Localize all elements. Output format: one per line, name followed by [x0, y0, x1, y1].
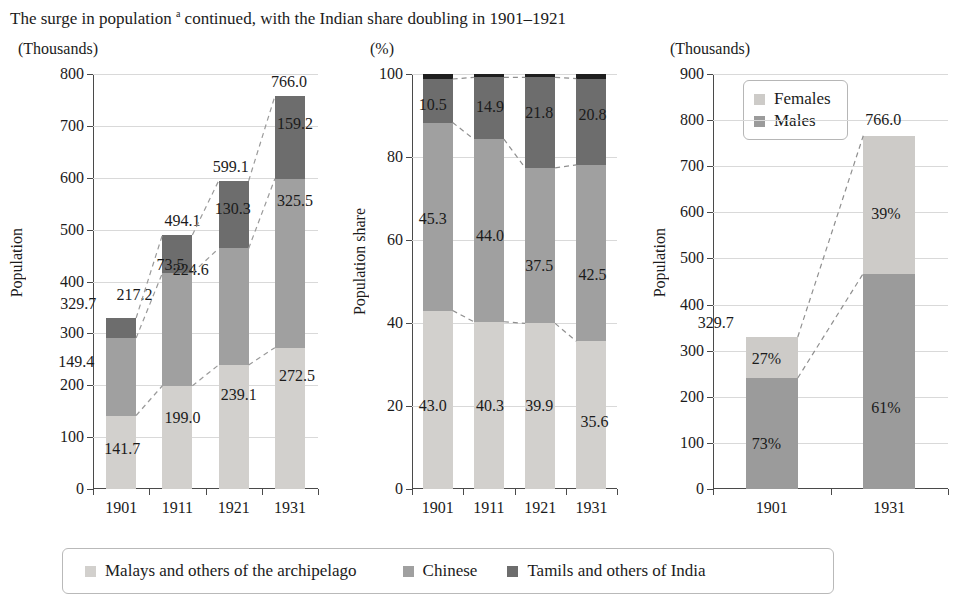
left-y-tick-label: 600: [60, 170, 84, 186]
mid-x-tick: [463, 489, 464, 495]
left-y-tick-label: 0: [76, 481, 84, 497]
mid-unit-label: (%): [370, 38, 394, 60]
left-y-tick: [87, 282, 93, 283]
mid-x-tick: [566, 489, 567, 495]
right-total-label: 766.0: [865, 112, 901, 128]
mid-x-tick-label: 1931: [575, 499, 607, 517]
right-y-tick: [707, 74, 713, 75]
mid-y-tick: [406, 74, 412, 75]
right-y-tick-label: 400: [680, 297, 704, 313]
bar: [219, 181, 249, 489]
left-chinese-label: 325.5: [277, 193, 313, 209]
right-y-tick: [707, 351, 713, 352]
mid-y-tick: [406, 323, 412, 324]
left-malays-label: 141.7: [104, 441, 140, 457]
figure-root: The surge in population a continued, wit…: [0, 0, 975, 613]
figure-title: The surge in population a continued, wit…: [10, 2, 566, 31]
left-malays-label: 199.0: [164, 410, 200, 426]
mid-chinese-label: 37.5: [525, 258, 553, 274]
mid-y-tick: [406, 157, 412, 158]
legend-item: Chinese: [403, 561, 478, 581]
legend-label: Tamils and others of India: [527, 561, 705, 581]
left-x-tick-label: 1901: [105, 499, 137, 517]
panel-population-absolute: (Thousands) Population 01002003004005006…: [0, 38, 345, 538]
mid-tamils-label: 10.5: [419, 97, 447, 113]
mid-malays-label: 39.9: [525, 398, 553, 414]
right-total-label: 329.7: [698, 315, 734, 331]
mid-y-axis: [412, 74, 413, 489]
right-females-label: 39%: [871, 206, 900, 222]
bar-segment-tamils: [275, 96, 305, 179]
bar-segment-chinese: [162, 273, 192, 386]
left-tamils-label: 159.2: [277, 116, 313, 132]
bar-segment-other: [576, 74, 606, 79]
mid-x-tick-label: 1901: [422, 499, 454, 517]
left-y-tick: [87, 74, 93, 75]
legend-swatch-icon: [85, 566, 96, 577]
bar: [474, 74, 504, 489]
bar-segment-males: [746, 378, 798, 489]
mid-y-tick-label: 80: [387, 149, 403, 165]
mid-x-tick: [515, 489, 516, 495]
left-x-tick: [93, 489, 94, 495]
left-total-label: 329.7: [60, 296, 96, 312]
females-legend-label: Females: [774, 89, 831, 109]
right-x-tick: [948, 489, 949, 495]
right-males-label: 61%: [871, 400, 900, 416]
left-y-tick: [87, 333, 93, 334]
mid-plot-area: 020406080100190119111921193110.514.921.8…: [412, 74, 617, 489]
mid-malays-label: 43.0: [419, 398, 447, 414]
left-chinese-label: 149.4: [58, 354, 94, 370]
right-y-tick-label: 600: [680, 204, 704, 220]
legend-label: Malays and others of the archipelago: [105, 561, 357, 581]
females-swatch-icon: [754, 94, 765, 105]
mid-tamils-label: 21.8: [525, 105, 553, 121]
left-malays-label: 239.1: [221, 387, 257, 403]
mid-y-tick-label: 40: [387, 315, 403, 331]
bar: [275, 96, 305, 489]
right-gridline: [713, 74, 948, 75]
right-y-tick: [707, 212, 713, 213]
right-x-tick-label: 1901: [756, 499, 788, 517]
mid-x-tick-label: 1921: [524, 499, 556, 517]
figure-title-footnote-marker: a: [176, 8, 180, 19]
right-y-tick-label: 700: [680, 158, 704, 174]
bar-segment-other: [474, 74, 504, 77]
left-y-tick-label: 300: [60, 325, 84, 341]
left-x-tick: [262, 489, 263, 495]
left-y-tick: [87, 385, 93, 386]
mid-chinese-label: 45.3: [419, 211, 447, 227]
right-axis-title: Population: [651, 228, 669, 297]
legend-item: Tamils and others of India: [507, 561, 705, 581]
left-plot-area: 0100200300400500600700800190119111921193…: [93, 74, 318, 489]
legend-item: Malays and others of the archipelago: [85, 561, 357, 581]
right-x-tick: [831, 489, 832, 495]
bar-segment-malays: [219, 365, 249, 489]
left-chinese-label: 217.2: [116, 287, 152, 303]
right-y-tick: [707, 397, 713, 398]
right-y-tick: [707, 166, 713, 167]
left-y-tick: [87, 230, 93, 231]
legend-swatch-icon: [403, 566, 414, 577]
bar-segment-chinese: [525, 168, 555, 324]
right-y-tick-label: 200: [680, 389, 704, 405]
right-plot-area: FemalesMales 010020030040050060070080090…: [713, 74, 948, 489]
right-x-tick-label: 1931: [873, 499, 905, 517]
figure-title-after: continued, with the Indian share doublin…: [185, 9, 567, 28]
left-x-tick-label: 1931: [274, 499, 306, 517]
bar: [106, 318, 136, 489]
left-tamils-label: 130.3: [215, 201, 251, 217]
mid-y-tick-label: 0: [395, 481, 403, 497]
left-x-tick: [318, 489, 319, 495]
left-malays-label: 272.5: [279, 368, 315, 384]
right-y-tick-label: 500: [680, 250, 704, 266]
left-y-tick-label: 200: [60, 377, 84, 393]
bar-segment-chinese: [219, 248, 249, 365]
mid-y-tick-label: 100: [379, 66, 403, 82]
right-y-tick: [707, 258, 713, 259]
left-axis-title: Population: [8, 228, 26, 297]
legend-label: Chinese: [423, 561, 478, 581]
right-y-tick-label: 900: [680, 66, 704, 82]
left-y-tick: [87, 126, 93, 127]
mid-tamils-label: 14.9: [476, 99, 504, 115]
